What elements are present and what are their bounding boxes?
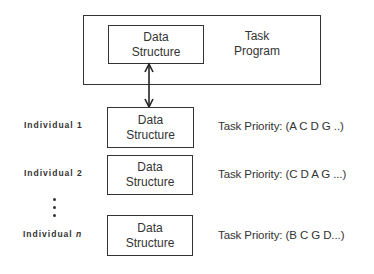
individual-n-task-priority: Task Priority: (B C G D...) xyxy=(218,229,344,241)
individual-2-data-structure-box: Data Structure xyxy=(107,155,193,195)
data-structure-label: Data Structure xyxy=(108,160,192,190)
individual-2-task-priority: Task Priority: (C D A G ...) xyxy=(218,168,346,180)
individual-n-label: Individual n xyxy=(23,229,82,239)
individual-n-data-structure-box: Data Structure xyxy=(107,215,193,256)
data-structure-label: Data Structure xyxy=(108,113,193,143)
vertical-ellipsis-icon xyxy=(53,198,57,228)
individual-1-label: Individual 1 xyxy=(24,120,83,130)
individual-1-data-structure-box: Data Structure xyxy=(107,107,194,148)
data-structure-label: Data Structure xyxy=(108,221,192,251)
individual-2-label: Individual 2 xyxy=(24,168,83,178)
individual-1-task-priority: Task Priority: (A C D G ..) xyxy=(218,120,344,132)
